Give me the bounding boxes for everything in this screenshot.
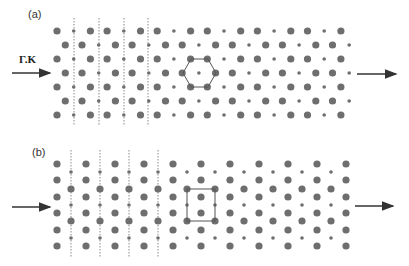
atom-small bbox=[272, 85, 276, 89]
atom-small bbox=[347, 43, 351, 47]
atom-large bbox=[327, 185, 334, 192]
atom-large bbox=[262, 97, 269, 104]
atom-large bbox=[313, 242, 320, 249]
atom-large bbox=[129, 97, 136, 104]
atom-small bbox=[147, 99, 151, 103]
atom-large bbox=[169, 242, 176, 249]
atom-large bbox=[104, 27, 111, 34]
atom-small bbox=[172, 85, 176, 89]
atom-large bbox=[254, 83, 261, 90]
atom-large bbox=[254, 27, 261, 34]
atom-large bbox=[197, 160, 204, 167]
atom-large bbox=[82, 242, 89, 249]
atom-small bbox=[185, 236, 189, 240]
atom-small bbox=[197, 71, 201, 75]
atom-small bbox=[122, 85, 126, 89]
atom-small bbox=[72, 57, 76, 61]
lattice-figure bbox=[0, 0, 409, 266]
atom-large bbox=[82, 160, 89, 167]
atom-large bbox=[304, 55, 311, 62]
atom-large bbox=[312, 69, 319, 76]
atom-small bbox=[98, 170, 102, 174]
atom-large bbox=[53, 226, 60, 233]
atom-large bbox=[284, 176, 291, 183]
atom-large bbox=[262, 69, 269, 76]
atom-large bbox=[237, 55, 244, 62]
atom-large bbox=[197, 193, 204, 200]
atom-large bbox=[226, 242, 233, 249]
atom-small bbox=[122, 57, 126, 61]
atom-large bbox=[337, 83, 344, 90]
atom-large bbox=[229, 97, 236, 104]
atom-large bbox=[287, 27, 294, 34]
atom-large bbox=[87, 83, 94, 90]
atom-large bbox=[137, 83, 144, 90]
atom-small bbox=[213, 170, 217, 174]
atom-large bbox=[298, 217, 305, 224]
atom-large bbox=[111, 160, 118, 167]
atom-small bbox=[172, 57, 176, 61]
atom-large bbox=[53, 176, 60, 183]
atom-large bbox=[337, 55, 344, 62]
atom-small bbox=[69, 236, 73, 240]
atom-large bbox=[269, 185, 276, 192]
atom-large bbox=[284, 226, 291, 233]
atom-small bbox=[98, 203, 102, 207]
atom-large bbox=[111, 209, 118, 216]
atom-large bbox=[284, 193, 291, 200]
atom-small bbox=[97, 71, 101, 75]
atom-small bbox=[156, 236, 160, 240]
atom-large bbox=[255, 193, 262, 200]
atom-small bbox=[322, 85, 326, 89]
atom-large bbox=[67, 185, 74, 192]
atom-small bbox=[271, 236, 275, 240]
atom-large bbox=[62, 41, 69, 48]
atom-large bbox=[169, 160, 176, 167]
atom-large bbox=[104, 55, 111, 62]
atom-large bbox=[237, 27, 244, 34]
atom-large bbox=[255, 226, 262, 233]
atom-large bbox=[342, 209, 349, 216]
atom-large bbox=[329, 97, 336, 104]
atom-small bbox=[297, 43, 301, 47]
atom-large bbox=[112, 97, 119, 104]
atom-large bbox=[137, 55, 144, 62]
atom-large bbox=[342, 193, 349, 200]
atom-small bbox=[242, 170, 246, 174]
atom-large bbox=[337, 111, 344, 118]
atom-small bbox=[300, 170, 304, 174]
atom-large bbox=[154, 55, 161, 62]
atom-small bbox=[72, 29, 76, 33]
atom-small bbox=[272, 113, 276, 117]
atom-small bbox=[127, 170, 131, 174]
atom-large bbox=[337, 27, 344, 34]
atom-large bbox=[279, 97, 286, 104]
atom-large bbox=[226, 176, 233, 183]
atom-small bbox=[69, 203, 73, 207]
atom-large bbox=[169, 209, 176, 216]
atom-large bbox=[111, 193, 118, 200]
atom-small bbox=[156, 203, 160, 207]
atom-large bbox=[129, 41, 136, 48]
atom-small bbox=[242, 203, 246, 207]
atom-large bbox=[96, 217, 103, 224]
atom-small bbox=[147, 71, 151, 75]
atom-small bbox=[222, 113, 226, 117]
atom-large bbox=[313, 209, 320, 216]
atom-small bbox=[300, 203, 304, 207]
atom-small bbox=[197, 43, 201, 47]
atom-small bbox=[147, 43, 151, 47]
atom-small bbox=[127, 236, 131, 240]
atom-large bbox=[226, 193, 233, 200]
atom-small bbox=[297, 71, 301, 75]
atom-large bbox=[312, 41, 319, 48]
atom-large bbox=[269, 217, 276, 224]
atom-large bbox=[212, 41, 219, 48]
atom-small bbox=[272, 29, 276, 33]
atom-large bbox=[237, 83, 244, 90]
atom-small bbox=[97, 43, 101, 47]
atom-large bbox=[197, 209, 204, 216]
atom-large bbox=[313, 176, 320, 183]
atom-large bbox=[284, 209, 291, 216]
atom-large bbox=[279, 41, 286, 48]
